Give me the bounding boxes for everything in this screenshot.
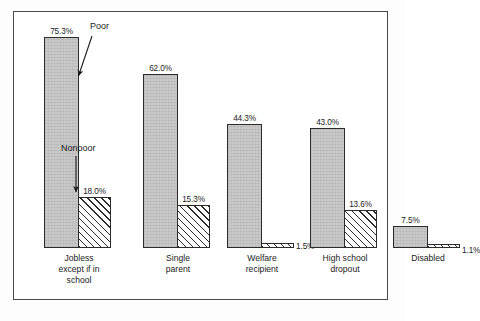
bar-value-label: 43.0% [316,118,339,127]
bar-poor-dropout: 43.0% [310,128,345,248]
annotation-nonpoor-label: Nonpoor [61,143,96,153]
bar-nonpoor-disabled: 1.1% [427,244,460,248]
plot-area: 75.3% 18.0% 62.0% 15.3% [14,12,389,301]
annotation-poor-label: Poor [90,21,109,31]
bar-value-label: 75.3% [50,27,73,36]
bar-nonpoor-jobless: 18.0% [78,197,111,248]
bar-pair: 43.0% 13.6% [310,128,377,248]
category-label-jobless: Jobless except if in school [27,253,131,287]
bar-value-label: 15.3% [182,195,205,204]
bar-pair: 62.0% 15.3% [143,74,210,248]
category-label-disabled: Disabled [376,253,480,264]
bar-poor-single-parent: 62.0% [143,74,178,248]
bar-nonpoor-dropout: 13.6% [344,210,377,248]
cut-off-caption [22,311,372,319]
chart-frame: 75.3% 18.0% 62.0% 15.3% [13,11,388,300]
bar-poor-disabled: 7.5% [393,226,428,248]
bar-value-label: 18.0% [83,187,106,196]
bar-nonpoor-single-parent: 15.3% [177,205,210,248]
bar-nonpoor-welfare: 1.5% [261,243,294,248]
bar-pair: 7.5% 1.1% [393,226,460,248]
bar-value-label: 62.0% [149,64,172,73]
bar-value-label: 7.5% [401,216,419,225]
bar-pair: 44.3% 1.5% [227,124,294,248]
bar-value-label: 13.6% [349,200,372,209]
bar-poor-welfare: 44.3% [227,124,262,248]
bar-value-label: 44.3% [233,114,256,123]
